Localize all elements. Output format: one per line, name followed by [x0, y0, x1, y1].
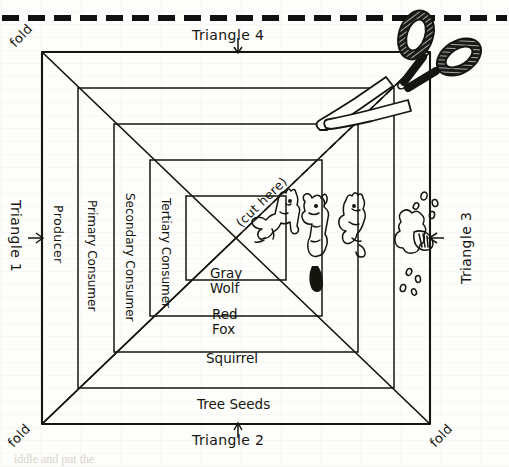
organism-label-tree-seeds: Tree Seeds [197, 396, 270, 412]
triangle-1-label: Triangle 1 [8, 200, 24, 272]
gray-wolf-line-1: Gray [210, 266, 242, 281]
worksheet-canvas: iddle and put the [0, 0, 509, 467]
red-fox-line-1: Red [212, 307, 238, 322]
secondary-consumer-text: Secondary Consumer [123, 193, 136, 322]
triangle-2-label: Triangle 2 [192, 432, 264, 448]
organism-label-red-fox: Red Fox [212, 307, 238, 337]
organism-label-gray-wolf: Gray Wolf [210, 266, 242, 296]
scissors-handle-lower [430, 31, 488, 84]
triangle-3-label: Triangle 3 [458, 212, 474, 284]
arrow-triangle-1 [28, 233, 43, 243]
organism-label-squirrel: Squirrel [206, 350, 258, 366]
triangle-4-label: Triangle 4 [192, 27, 264, 43]
red-fox-line-2: Fox [212, 322, 238, 337]
trophic-label-secondary-consumer: Secondary Consumer [123, 193, 136, 322]
trophic-label-primary-consumer: Primary Consumer Primary Consumer [85, 200, 98, 311]
tertiary-consumer-text: Tertiary Consumer [159, 198, 172, 308]
trophic-label-producer: Producer [51, 205, 66, 264]
primary-consumer-text: Primary Consumer [85, 200, 98, 311]
gray-wolf-line-2: Wolf [210, 281, 242, 296]
trophic-label-tertiary-consumer: Tertiary Consumer [159, 198, 172, 308]
